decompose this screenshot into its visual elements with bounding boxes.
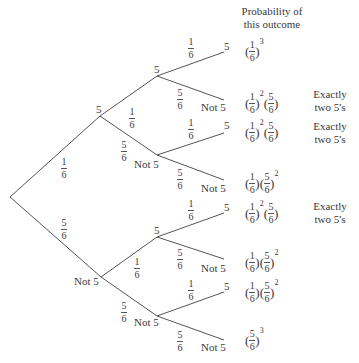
outcome-factor: (16) — [245, 281, 260, 304]
header-line1: Probability of — [232, 5, 312, 18]
leaf-1: 5 — [224, 40, 230, 52]
prob-leaf-2: 56 — [177, 88, 183, 111]
outcome-factor: (56)2 — [260, 251, 279, 274]
outcome-factor: (16)2 — [245, 121, 264, 144]
note-outcome-3: Exactlytwo 5's — [305, 120, 355, 146]
prob-l1b-not5: 56 — [121, 301, 127, 324]
outcome-probability-8: (56)3 — [245, 329, 264, 352]
outcome-factor: (16)2 — [245, 202, 264, 225]
outcome-probability-5: (16)2(56) — [245, 202, 278, 225]
outcome-probability-6: (16)(56)2 — [245, 251, 278, 274]
outcome-probability-3: (16)2(56) — [245, 121, 278, 144]
outcome-factor: (16) — [245, 172, 260, 195]
branch-l1b-not5 — [101, 277, 157, 316]
outcome-probability-1: (16)3 — [245, 40, 264, 63]
leaf-2: Not 5 — [201, 101, 226, 113]
header-line2: this outcome — [232, 18, 312, 31]
branch-leaf-6 — [157, 237, 224, 259]
node-l1-five: 5 — [96, 103, 102, 115]
branch-leaf-8 — [157, 316, 224, 340]
outcome-factor: (16)3 — [245, 40, 264, 63]
branch-root-five — [10, 116, 100, 197]
prob-root-not5: 56 — [61, 218, 67, 241]
leaf-3: 5 — [224, 119, 230, 131]
node-l1-not5: Not 5 — [74, 275, 99, 287]
leaf-4: Not 5 — [201, 182, 226, 194]
node-l2-c: 5 — [154, 224, 160, 236]
prob-root-five: 16 — [61, 157, 67, 180]
node-l2-b: Not 5 — [134, 158, 159, 170]
leaf-5: 5 — [224, 201, 230, 213]
outcome-probability-2: (16)2(56) — [245, 92, 278, 115]
note-outcome-5: Exactlytwo 5's — [305, 200, 355, 226]
outcome-factor: (16) — [245, 251, 260, 274]
branch-leaf-4 — [157, 155, 224, 180]
note-outcome-2: Exactly two 5's Exactlytwo 5's — [305, 88, 355, 114]
prob-l1b-five: 16 — [134, 257, 140, 280]
node-l2-d: Not 5 — [134, 316, 159, 328]
branch-leaf-2 — [157, 76, 224, 100]
outcome-factor: (56) — [264, 92, 279, 115]
outcome-factor: (56) — [264, 121, 279, 144]
prob-leaf-4: 56 — [177, 168, 183, 191]
leaf-7: 5 — [224, 280, 230, 292]
outcome-probability-7: (16)(56)2 — [245, 281, 278, 304]
outcome-factor: (56) — [264, 202, 279, 225]
leaf-6: Not 5 — [201, 262, 226, 274]
prob-leaf-5: 16 — [188, 199, 194, 222]
prob-leaf-6: 56 — [177, 248, 183, 271]
outcome-factor: (56)3 — [245, 329, 264, 352]
prob-leaf-3: 16 — [188, 118, 194, 141]
prob-l1a-five: 16 — [129, 107, 135, 130]
outcome-probability-4: (16)(56)2 — [245, 172, 278, 195]
probability-header: Probability of this outcome — [232, 5, 312, 31]
node-l2-a: 5 — [154, 63, 160, 75]
prob-leaf-7: 16 — [188, 279, 194, 302]
prob-leaf-8: 56 — [177, 330, 183, 353]
prob-leaf-1: 16 — [188, 37, 194, 60]
prob-l1a-not5: 56 — [121, 140, 127, 163]
leaf-8: Not 5 — [201, 341, 226, 353]
outcome-factor: (56)2 — [260, 172, 279, 195]
outcome-factor: (16)2 — [245, 92, 264, 115]
branch-root-not5 — [10, 197, 101, 277]
outcome-factor: (56)2 — [260, 281, 279, 304]
branch-l1b-five — [101, 237, 157, 277]
